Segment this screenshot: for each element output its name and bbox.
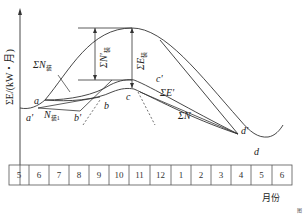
- month-cell: 9: [97, 170, 102, 180]
- label-sum-n-prime: ΣN'装: [98, 47, 111, 69]
- point-a: a: [34, 95, 39, 106]
- point-c: c: [126, 91, 131, 102]
- month-cell: 6: [280, 170, 285, 180]
- arrow-up-icon: [93, 28, 97, 33]
- point-c-prime: c': [156, 73, 163, 84]
- month-cell: 5: [259, 170, 264, 180]
- month-cell: 12: [156, 170, 165, 180]
- dashed-b-prime: [83, 100, 100, 125]
- label-n-installed-1: N装1: [43, 109, 60, 122]
- y-axis-label: ΣE/(kW・月): [4, 49, 16, 105]
- arrow-down-icon: [93, 75, 97, 80]
- month-cell: 2: [199, 170, 204, 180]
- leader-sum-n-installed: [58, 75, 70, 92]
- month-cell: 11: [135, 170, 144, 180]
- month-cell: 7: [57, 170, 62, 180]
- figure-mark: 图: [297, 207, 302, 214]
- month-cell: 10: [115, 170, 125, 180]
- y-axis-arrow-icon: [18, 8, 22, 15]
- arrow-up-icon-2: [130, 28, 134, 33]
- x-axis-label: 月份: [262, 192, 280, 203]
- diagram-canvas: ΣE/(kW・月) ΣN装 ΣN'装 ΣE装 ΣE' ΣN N装1 a a' b…: [0, 0, 303, 215]
- point-b: b: [104, 100, 109, 111]
- point-d-prime: d': [241, 125, 249, 136]
- point-a-prime: a': [26, 112, 34, 123]
- point-b-prime: b': [74, 112, 82, 123]
- month-cell: 1: [179, 170, 184, 180]
- month-cell: 5: [17, 170, 22, 180]
- point-d: d: [254, 146, 260, 157]
- label-sum-n-installed: ΣN装: [32, 59, 52, 72]
- month-cell: 3: [219, 170, 224, 180]
- arrow-down-icon-2: [130, 83, 134, 88]
- month-cell: 6: [37, 170, 42, 180]
- curve-sum-e-prime: [45, 80, 238, 134]
- month-cell: 4: [239, 170, 244, 180]
- month-cell: 8: [77, 170, 82, 180]
- label-sum-e-prime: ΣE': [159, 87, 175, 98]
- label-sum-e: ΣE装: [135, 52, 148, 71]
- month-table: 5 6 7 8 9 10 11 12 1 2 3 4 5 6: [9, 165, 292, 185]
- label-sum-n: ΣN: [177, 110, 192, 121]
